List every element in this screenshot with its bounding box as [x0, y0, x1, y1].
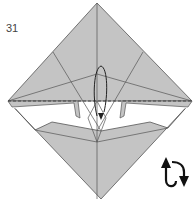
- upper-flap: [8, 3, 192, 101]
- arrow-head-icon: [98, 113, 104, 120]
- turn-over-arrowhead-up: [161, 157, 171, 168]
- origami-step-diagram: [0, 0, 196, 204]
- turn-over-arrowhead-down: [179, 176, 189, 187]
